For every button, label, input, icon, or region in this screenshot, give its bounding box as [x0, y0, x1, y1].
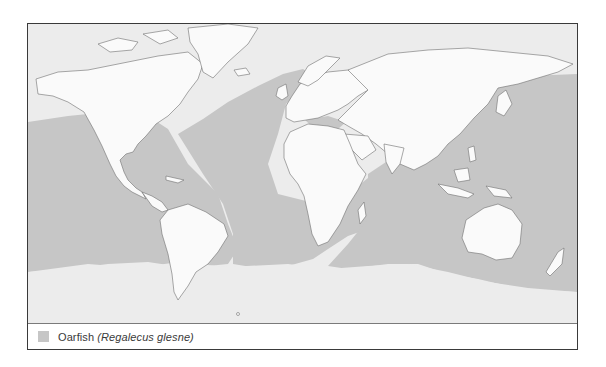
legend-swatch-oarfish-range: [38, 331, 49, 342]
legend-scientific-name: (Regalecus glesne): [97, 331, 194, 343]
map-figure: Oarfish (Regalecus glesne): [27, 23, 578, 350]
world-map-svg: [28, 24, 577, 323]
legend-label: Oarfish (Regalecus glesne): [58, 331, 194, 343]
legend: Oarfish (Regalecus glesne): [28, 324, 577, 349]
legend-common-name: Oarfish: [58, 331, 94, 343]
world-map: [28, 24, 577, 324]
island-south-georgia: [237, 313, 240, 316]
